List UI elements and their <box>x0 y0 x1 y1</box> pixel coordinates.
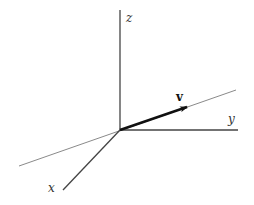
z-axis-label: z <box>125 11 133 25</box>
axes-diagram: z y x v <box>0 0 254 205</box>
x-axis-label: x <box>48 181 55 195</box>
diagram-canvas: z y x v <box>0 0 254 205</box>
vector-v <box>120 107 187 130</box>
x-axis <box>63 130 120 190</box>
y-axis-label: y <box>227 112 235 126</box>
vector-v-label: v <box>175 90 184 104</box>
